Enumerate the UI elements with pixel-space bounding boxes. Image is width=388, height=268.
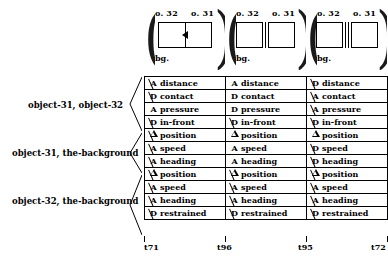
- symbol-a-negated: A: [311, 195, 320, 206]
- scene-1-boxes: [153, 20, 216, 50]
- scene-2: ( ) o. 32 o. 31 bg.: [225, 4, 306, 72]
- matrix-cell: Drestrained: [145, 207, 226, 220]
- matrix-cell: Dpressure: [226, 103, 307, 116]
- table-row: AheadingAheadingAheading: [145, 194, 388, 207]
- matrix-cell: Drestrained: [307, 207, 388, 220]
- property-label: pressure: [241, 104, 280, 114]
- triangle-glyph: [231, 130, 239, 137]
- symbol-a: A: [149, 104, 158, 115]
- matrix-cell: Dcontact: [226, 90, 307, 103]
- triangle-negated-icon: [149, 130, 158, 141]
- matrix-cell: Din-front: [307, 116, 388, 129]
- table-row: AdistanceAdistanceDdistance: [145, 77, 388, 90]
- property-label: distance: [322, 78, 360, 88]
- property-label: position: [241, 169, 277, 179]
- property-label: position: [160, 130, 196, 140]
- matrix-cell: Dcontact: [145, 90, 226, 103]
- property-label: speed: [241, 143, 267, 153]
- matrix-cell: Apressure: [307, 103, 388, 116]
- triangle-inner: [151, 132, 155, 136]
- property-label: position: [322, 169, 358, 179]
- property-label: heading: [241, 156, 277, 166]
- symbol-d-negated: D: [230, 117, 239, 128]
- matrix-cell: position: [307, 129, 388, 142]
- property-matrix-table: AdistanceAdistanceDdistanceDcontactDcont…: [144, 76, 388, 220]
- property-label: speed: [322, 143, 348, 153]
- matrix-cell: Din-front: [145, 116, 226, 129]
- double-bar-separator-icon: [343, 22, 351, 48]
- property-label: in-front: [241, 117, 276, 127]
- scene-2-right-object-label: o. 31: [272, 8, 295, 19]
- triangle-glyph: [312, 169, 320, 176]
- scene-2-left-object-label: o. 32: [236, 8, 259, 19]
- property-label: heading: [160, 156, 196, 166]
- property-label: heading: [322, 195, 358, 205]
- property-label: distance: [160, 78, 198, 88]
- property-label: restrained: [160, 208, 206, 218]
- scene-1-right-object-label: o. 31: [191, 8, 214, 19]
- symbol-d-negated: D: [149, 91, 158, 102]
- scene-3-object-31-box: [351, 22, 378, 48]
- property-label: heading: [322, 156, 358, 166]
- triangle-inner: [313, 132, 317, 136]
- symbol-d-negated: D: [149, 117, 158, 128]
- scene-3-object-32-box: [316, 22, 343, 48]
- matrix-cell: Aheading: [226, 155, 307, 168]
- contact-arrow-icon: [182, 31, 188, 39]
- table-row: positionpositionposition: [145, 129, 388, 142]
- scene-1: ( ) o. 32 o. 31 bg.: [144, 4, 225, 72]
- table-row: Din-frontDin-frontDin-front: [145, 116, 388, 129]
- matrix-cell: position: [226, 129, 307, 142]
- symbol-a-negated: A: [311, 91, 320, 102]
- scene-3: ( ) o. 32 o. 31 bg.: [306, 4, 387, 72]
- scene-1-object-32-box: [158, 22, 185, 48]
- triangle-negated-icon: [149, 169, 158, 180]
- matrix-cell: Acontact: [307, 90, 388, 103]
- matrix-cell: position: [307, 168, 388, 181]
- timeline-axis: t71t96t95t72: [144, 242, 388, 256]
- symbol-d-negated: D: [311, 143, 320, 154]
- triangle-icon: [311, 130, 320, 141]
- matrix-cell: Adistance: [145, 77, 226, 90]
- matrix-cell: Aheading: [145, 194, 226, 207]
- symbol-a: A: [230, 156, 239, 167]
- symbol-d-negated: D: [230, 208, 239, 219]
- matrix-cell: Din-front: [226, 116, 307, 129]
- matrix-cell: Apressure: [145, 103, 226, 116]
- scene-1-left-object-label: o. 32: [155, 8, 178, 19]
- scene-2-background-label: bg.: [234, 53, 297, 63]
- symbol-a-negated: A: [149, 182, 158, 193]
- table-row: AspeedAspeedDspeed: [145, 142, 388, 155]
- single-bar-separator-icon: [263, 22, 268, 48]
- property-label: position: [160, 169, 196, 179]
- property-label: contact: [241, 91, 274, 101]
- scene-diagram-row: ( ) o. 32 o. 31 bg. ( ) o. 32 o. 31: [144, 4, 388, 72]
- symbol-a-negated: A: [230, 182, 239, 193]
- symbol-d-negated: D: [149, 208, 158, 219]
- symbol-a-negated: A: [149, 195, 158, 206]
- property-label: heading: [160, 195, 196, 205]
- matrix-cell: Adistance: [226, 77, 307, 90]
- symbol-a: A: [230, 143, 239, 154]
- symbol-a-negated: A: [230, 195, 239, 206]
- matrix-cell: Aspeed: [226, 142, 307, 155]
- property-label: speed: [241, 182, 267, 192]
- timeline-tick-label: t71: [144, 242, 159, 252]
- triangle-glyph: [312, 130, 320, 137]
- property-matrix-body: AdistanceAdistanceDdistanceDcontactDcont…: [145, 77, 388, 220]
- timeline-tick-label: t95: [298, 242, 313, 252]
- property-label: heading: [241, 195, 277, 205]
- property-label: speed: [160, 143, 186, 153]
- matrix-cell: Dheading: [307, 155, 388, 168]
- property-label: restrained: [322, 208, 368, 218]
- property-label: position: [322, 130, 358, 140]
- scene-2-object-31-box: [268, 22, 295, 48]
- symbol-a-negated: A: [149, 156, 158, 167]
- timeline-tick-label: t96: [217, 242, 232, 252]
- symbol-d-negated: D: [311, 208, 320, 219]
- matrix-cell: Aspeed: [307, 181, 388, 194]
- table-row: DrestrainedDrestrainedDrestrained: [145, 207, 388, 220]
- symbol-d-negated: D: [311, 156, 320, 167]
- matrix-cell: Aspeed: [145, 181, 226, 194]
- symbol-d-negated: D: [311, 117, 320, 128]
